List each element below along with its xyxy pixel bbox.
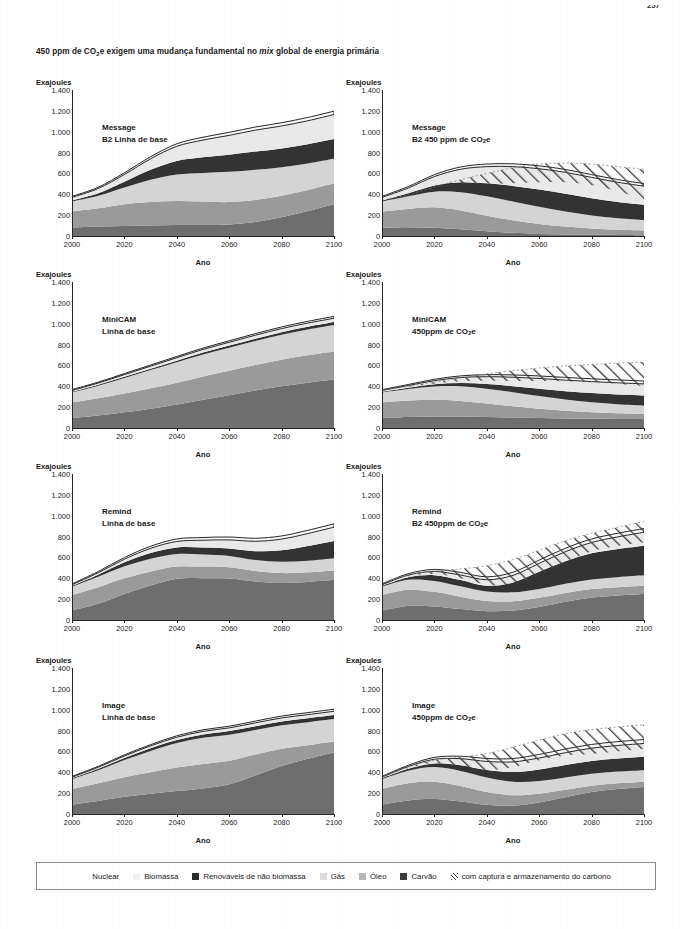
plot-area: 02004006008001.0001.2001.400200020202040… — [346, 90, 651, 240]
x-axis-title: Ano — [382, 642, 644, 651]
x-axis-tickmark — [334, 814, 335, 817]
x-axis-tick-label: 2040 — [479, 624, 495, 633]
y-axis-tick-label: 1.200 — [52, 490, 71, 499]
legend-label: Biomassa — [144, 872, 178, 881]
legend-item: Gás — [320, 872, 345, 881]
y-axis-tick-label: 1.200 — [362, 490, 381, 499]
panel-caption: RemindLinha de base — [102, 506, 155, 529]
y-axis-tick-label: 1.000 — [52, 705, 71, 714]
x-axis-tick-label: 2000 — [64, 624, 80, 633]
y-axis-tick-label: 600 — [58, 169, 70, 178]
y-axis-line — [72, 668, 73, 814]
panel-scenario-subscript: 2 — [468, 330, 471, 336]
y-axis-tick-label: 800 — [368, 532, 380, 541]
legend-swatch-icon — [451, 873, 458, 880]
x-axis-tickmark — [539, 428, 540, 431]
x-axis-tickmark — [434, 814, 435, 817]
y-axis-tick-label: 1.000 — [52, 127, 71, 136]
x-axis-tickmark — [72, 814, 73, 817]
x-axis-tickmark — [434, 236, 435, 239]
legend-item: Carvão — [400, 872, 436, 881]
panel-scenario-name: B2 Linha de base — [102, 134, 168, 146]
x-axis-title: Ano — [72, 258, 334, 267]
x-axis-tick-label: 2020 — [116, 624, 132, 633]
y-axis-tick-label: 400 — [368, 574, 380, 583]
x-axis-tickmark — [382, 428, 383, 431]
x-axis-tick-label: 2000 — [64, 240, 80, 249]
panel-model-name: Remind — [412, 506, 488, 518]
legend-swatch-icon — [133, 873, 140, 880]
y-axis-tick-label: 1.000 — [52, 511, 71, 520]
x-axis-tickmark — [282, 814, 283, 817]
x-axis-line — [382, 428, 644, 429]
x-axis-tickmark — [124, 236, 125, 239]
x-axis-tickmark — [282, 428, 283, 431]
panel-caption: ImageLinha de base — [102, 700, 155, 723]
chart-panel-minicam-baseline: Exajoules02004006008001.0001.2001.400200… — [36, 270, 341, 462]
chart-panel-remind-baseline: Exajoules02004006008001.0001.2001.400200… — [36, 462, 341, 654]
panel-model-name: Message — [412, 122, 490, 134]
x-axis-tickmark — [334, 428, 335, 431]
panel-scenario-name: Linha de base — [102, 518, 155, 530]
legend-item: Renováveis de não biomassa — [192, 872, 305, 881]
x-axis-tick-label: 2060 — [221, 624, 237, 633]
y-axis-tick-label: 1.200 — [52, 106, 71, 115]
x-axis-tick-label: 2060 — [221, 240, 237, 249]
x-axis-tickmark — [229, 620, 230, 623]
plot-area: 02004006008001.0001.2001.400200020202040… — [36, 668, 341, 818]
y-axis-tick-label: 800 — [58, 340, 70, 349]
y-axis-tick-label: 600 — [368, 747, 380, 756]
plot-canvas — [382, 282, 644, 428]
x-axis-tickmark — [177, 428, 178, 431]
y-axis-tick-label: 600 — [58, 361, 70, 370]
x-axis-tickmark — [72, 620, 73, 623]
chart-legend: NuclearBiomassaRenováveis de não biomass… — [36, 862, 656, 890]
x-axis-tick-label: 2020 — [116, 818, 132, 827]
y-axis-tick-label: 800 — [58, 532, 70, 541]
x-axis-tick-label: 2040 — [169, 432, 185, 441]
x-axis-tick-label: 2000 — [374, 624, 390, 633]
figure-title-sub: 2 — [96, 51, 99, 57]
chart-panel-message-450: Exajoules02004006008001.0001.2001.400200… — [346, 78, 651, 270]
plot-canvas — [382, 90, 644, 236]
x-axis-title: Ano — [382, 450, 644, 459]
y-axis-tick-label: 400 — [368, 768, 380, 777]
panel-model-name: Image — [412, 700, 476, 712]
chart-panel-remind-450: Exajoules02004006008001.0001.2001.400200… — [346, 462, 651, 654]
x-axis-line — [382, 814, 644, 815]
y-axis-tick-label: 400 — [58, 574, 70, 583]
x-axis-tickmark — [282, 236, 283, 239]
y-axis-tick-label: 1.400 — [52, 664, 71, 673]
figure-title: 450 ppm de CO2e exigem uma mudança funda… — [36, 47, 379, 56]
x-axis-tickmark — [177, 236, 178, 239]
panel-scenario-name: B2 450 ppm de CO2e — [412, 134, 490, 147]
x-axis-tick-label: 2080 — [583, 432, 599, 441]
x-axis-tickmark — [644, 620, 645, 623]
x-axis-tickmark — [487, 814, 488, 817]
panel-scenario-name: B2 450ppm de CO2e — [412, 518, 488, 531]
panel-model-name: MiniCAM — [412, 314, 476, 326]
x-axis-tick-label: 2020 — [426, 240, 442, 249]
y-axis-tick-label: 600 — [368, 553, 380, 562]
panel-model-name: Remind — [102, 506, 155, 518]
x-axis-tickmark — [644, 428, 645, 431]
y-axis-tick-label: 200 — [58, 789, 70, 798]
chart-panel-minicam-450: Exajoules02004006008001.0001.2001.400200… — [346, 270, 651, 462]
plot-canvas — [72, 282, 334, 428]
figure-title-italic: mix — [259, 47, 273, 56]
panel-scenario-name: Linha de base — [102, 712, 155, 724]
panel-caption: MessageB2 450 ppm de CO2e — [412, 122, 490, 146]
y-axis-tick-label: 200 — [368, 789, 380, 798]
legend-swatch-icon — [81, 873, 88, 880]
x-axis-line — [72, 236, 334, 237]
y-axis-tick-label: 400 — [58, 768, 70, 777]
x-axis-tick-label: 2080 — [273, 240, 289, 249]
x-axis-tick-label: 2020 — [116, 432, 132, 441]
x-axis-tick-label: 2100 — [326, 432, 342, 441]
y-axis-tick-label: 1.200 — [52, 684, 71, 693]
x-axis-tick-label: 2020 — [426, 432, 442, 441]
x-axis-tickmark — [229, 236, 230, 239]
y-axis-tick-label: 600 — [368, 169, 380, 178]
y-axis-tick-label: 1.200 — [362, 106, 381, 115]
y-axis-tick-label: 600 — [58, 747, 70, 756]
